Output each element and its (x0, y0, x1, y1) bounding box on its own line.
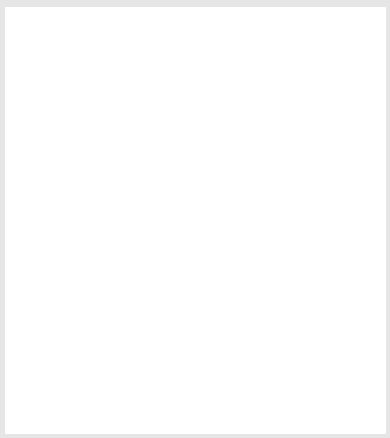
tree-connectors (0, 0, 390, 438)
